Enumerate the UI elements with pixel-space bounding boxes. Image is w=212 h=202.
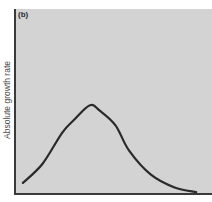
growth-rate-curve [0,0,212,202]
chart-figure: (b) Absolute growth rate [0,0,212,202]
curve-line [23,105,196,192]
